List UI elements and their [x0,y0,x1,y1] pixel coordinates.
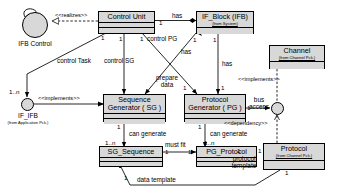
class-channel-package: (from Channel Pck.) [272,55,322,60]
multiplicity-protocol-tmpl: 1 [258,147,261,154]
multiplicity-ifb-to-sg: 1 [193,36,196,43]
class-channel-name: Channel [272,47,322,55]
multiplicity-control-task-1n: 1..n [9,88,19,95]
class-protocol[interactable]: Protocol (from Channel Pck.) [263,143,325,170]
class-protocol-operations [264,161,324,169]
role-has-ifb-pg: has [222,60,232,67]
multiplicity-cu-bottom-right: 1 [140,35,143,42]
stereotype-dependency: <<dependency>> [224,120,268,127]
interface-if-ifb-label: IF_IFB (from Application Pck.) [0,112,58,125]
role-has-ifb-sg: has [181,48,191,55]
multiplicity-cu-to-ifb: 1 [159,19,162,26]
role-bus-access-line1: bus [246,96,272,103]
role-can-generate-pg: can generate [210,130,247,137]
role-protocol-template-line2: template [226,162,262,169]
class-protocol-header: Protocol (from Channel Pck.) [264,144,324,161]
class-sg-sequence-header: SG_Sequence [100,147,162,158]
class-sequence-generator[interactable]: Sequence Generator ( SG ) [103,94,166,122]
class-sg-sequence-operations [100,162,162,166]
stereotype-implements-channel: <<implements>> [238,76,280,83]
class-protocol-package: (from Channel Pck.) [266,153,322,158]
class-sequence-generator-header: Sequence Generator ( SG ) [104,95,165,114]
role-protocol-template-line1: protocol [226,155,262,162]
class-control-unit[interactable]: Control Unit [98,11,155,34]
multiplicity-pg-protocol-1n: 1..n [204,139,214,146]
multiplicity-cu-bottom-mid: 1 [119,35,122,42]
class-channel-header: Channel (from Channel Pck.) [270,46,324,62]
class-sg-sequence-name: SG_Sequence [102,148,160,156]
role-can-generate-sg: can generate [129,130,166,137]
class-sequence-generator-name-line2: Generator ( SG ) [106,104,163,112]
multiplicity-sg-seq-data-tmpl: 1 [124,174,127,181]
multiplicity-cu-bottom-left: 1 [101,34,104,41]
role-control-pg: control PG [147,35,177,42]
interface-ifb-control-label: IFB Control [3,40,67,48]
stereotype-realizes: <<realizes>> [55,12,87,19]
multiplicity-sg-seq-must-fit: 1 [165,148,168,155]
multiplicity-pg-proto-must-fit: 1 [188,148,191,155]
class-protocol-generator[interactable]: Protocol Generator ( PG ) [184,94,246,122]
multiplicity-ifb-to-pg: 1 [213,36,216,43]
interface-if-ifb-name: IF_IFB [0,112,58,120]
multiplicity-sg-can-generate: 1 [117,123,120,130]
class-control-unit-name: Control Unit [101,13,152,21]
interface-if-ifb-circle[interactable] [21,98,34,111]
role-must-fit: must fit [165,141,186,148]
interface-ifb-control-circle[interactable] [22,12,48,38]
class-if-block[interactable]: IF_Block (IFB) (from System) [196,11,254,34]
multiplicity-pg-protocol-tmpl: 1 [237,147,240,154]
role-prepare-data-line1: prepare [151,74,183,81]
role-prepare-data: prepare data [151,74,183,88]
class-protocol-name: Protocol [266,145,322,153]
multiplicity-pg-can-generate: 1 [198,123,201,130]
uml-class-diagram: Control Unit IF_Block (IFB) (from System… [0,0,342,192]
class-control-unit-operations [99,28,154,33]
class-if-block-package: (from System) [199,21,251,26]
class-if-block-name: IF_Block (IFB) [199,13,251,21]
role-has-cu-ifb: has [172,12,182,19]
multiplicity-pg-top: 1 [221,84,224,91]
class-channel-operations [270,62,324,69]
stereotype-implements-ifb: <<implements>> [38,95,80,102]
multiplicity-protocol-data-tmpl: 1 [285,169,288,176]
class-sg-sequence[interactable]: SG_Sequence [99,146,163,167]
role-data-template: data template [137,176,176,183]
multiplicity-pg-bus: 1 [247,104,250,111]
multiplicity-sg-sequence-1n: 1..n [105,139,115,146]
multiplicity-sg-top: 1 [183,84,186,91]
class-channel[interactable]: Channel (from Channel Pck.) [269,45,325,69]
interface-bus-access-circle[interactable] [271,102,284,115]
class-if-block-header: IF_Block (IFB) (from System) [197,12,253,28]
class-if-block-operations [197,28,253,34]
role-prepare-data-line2: data [151,81,183,88]
interface-ifb-control-name: IFB Control [3,40,67,48]
class-protocol-generator-header: Protocol Generator ( PG ) [185,95,245,114]
role-control-sg: control SG [104,57,134,64]
interface-if-ifb-package: (from Application Pck.) [0,120,58,125]
role-protocol-template: protocol template [226,155,262,169]
role-control-task: control Task [57,57,91,64]
class-control-unit-header: Control Unit [99,12,154,23]
class-protocol-generator-name-line2: Generator ( PG ) [187,104,243,112]
class-sequence-generator-operations [104,119,165,124]
